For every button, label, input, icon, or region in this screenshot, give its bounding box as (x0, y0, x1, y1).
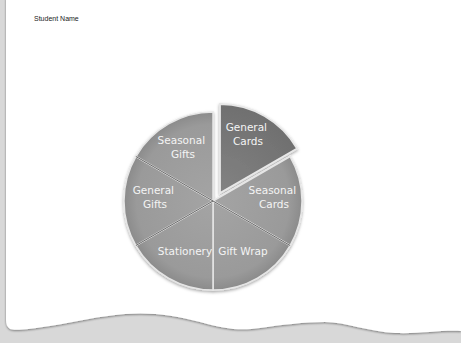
document-page-stage: General Cards Seasonal Cards Gift Wrap S… (0, 0, 461, 343)
label-stationery: Stationery (158, 245, 212, 257)
document-page: General Cards Seasonal Cards Gift Wrap S… (0, 0, 461, 343)
student-name-header: Student Name (34, 15, 79, 22)
label-gift-wrap: Gift Wrap (218, 245, 268, 257)
